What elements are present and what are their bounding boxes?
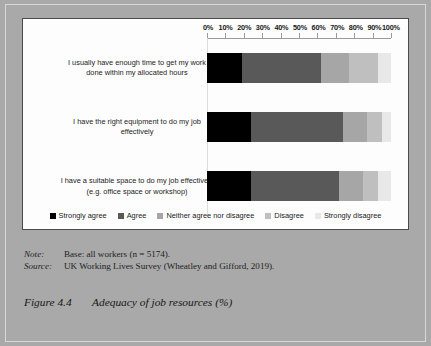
- figure-caption: Figure 4.4 Adequacy of job resources (%): [24, 296, 414, 308]
- legend-swatch-icon: [118, 213, 124, 219]
- figure-number: Figure 4.4: [24, 296, 92, 308]
- stacked-bar: [207, 53, 391, 83]
- bar-segment: [251, 171, 339, 201]
- chart-legend: Strongly agreeAgreeNeither agree nor dis…: [23, 211, 408, 220]
- x-axis-tick-label: 0%: [203, 23, 213, 32]
- bar-segment: [378, 53, 391, 83]
- legend-swatch-icon: [265, 213, 271, 219]
- legend-swatch-icon: [315, 213, 321, 219]
- x-axis-tick-label: 100%: [382, 23, 400, 32]
- legend-item[interactable]: Strongly disagree: [315, 211, 382, 220]
- bar-segment: [242, 53, 321, 83]
- legend-item[interactable]: Strongly agree: [50, 211, 107, 220]
- x-axis-tick-label: 30%: [256, 23, 270, 32]
- x-axis-tick-label: 70%: [330, 23, 344, 32]
- legend-swatch-icon: [157, 213, 163, 219]
- category-label-line: I have a suitable space to do my job eff…: [53, 176, 221, 187]
- legend-swatch-icon: [50, 213, 56, 219]
- legend-item[interactable]: Neither agree nor disagree: [157, 211, 254, 220]
- category-label: I have the right equipment to do my jobe…: [53, 116, 221, 137]
- category-label-line: effectively: [53, 127, 221, 138]
- stacked-bar: [207, 112, 391, 142]
- note-text: Base: all workers (n = 5174).: [64, 248, 414, 260]
- legend-label: Strongly agree: [59, 211, 107, 220]
- x-axis-tick-label: 60%: [312, 23, 326, 32]
- bar-segment: [363, 171, 378, 201]
- bar-segment: [349, 53, 378, 83]
- chart-panel: 0%10%20%30%40%50%60%70%80%90%100% I usua…: [22, 18, 409, 230]
- figure-notes: Note: Base: all workers (n = 5174). Sour…: [24, 248, 414, 273]
- bar-segment: [321, 53, 349, 83]
- x-axis-tick-label: 90%: [367, 23, 381, 32]
- source-text: UK Working Lives Survey (Wheatley and Gi…: [64, 260, 414, 272]
- bar-segment: [251, 112, 343, 142]
- category-label: I usually have enough time to get my wor…: [53, 57, 221, 78]
- note-row: Note: Base: all workers (n = 5174).: [24, 248, 414, 260]
- legend-label: Neither agree nor disagree: [166, 211, 254, 220]
- source-label: Source:: [24, 260, 64, 272]
- bar-segment: [378, 171, 391, 201]
- bar-segment: [207, 112, 251, 142]
- x-axis-tick-label: 20%: [237, 23, 251, 32]
- bar-segment: [207, 53, 242, 83]
- category-label-line: I have the right equipment to do my job: [53, 116, 221, 127]
- note-label: Note:: [24, 248, 64, 260]
- legend-label: Agree: [127, 211, 147, 220]
- bar-segment: [367, 112, 382, 142]
- figure-page: 0%10%20%30%40%50%60%70%80%90%100% I usua…: [0, 0, 431, 346]
- x-axis-tick-label: 80%: [349, 23, 363, 32]
- legend-label: Strongly disagree: [324, 211, 382, 220]
- bar-row: I have a suitable space to do my job eff…: [23, 157, 410, 216]
- bar-segment: [207, 171, 251, 201]
- x-axis-tick-label: 50%: [293, 23, 307, 32]
- x-axis-tick-label: 40%: [274, 23, 288, 32]
- category-label-line: (e.g. office space or workshop): [53, 186, 221, 197]
- bar-row: I usually have enough time to get my wor…: [23, 38, 410, 97]
- x-axis-tick-label: 10%: [219, 23, 233, 32]
- figure-title: Adequacy of job resources (%): [92, 296, 232, 308]
- legend-item[interactable]: Disagree: [265, 211, 304, 220]
- bar-segment: [343, 112, 367, 142]
- category-label: I have a suitable space to do my job eff…: [53, 176, 221, 197]
- category-label-line: I usually have enough time to get my wor…: [53, 57, 221, 68]
- legend-label: Disagree: [274, 211, 304, 220]
- stacked-bar: [207, 171, 391, 201]
- category-label-line: done within my allocated hours: [53, 68, 221, 79]
- bar-row: I have the right equipment to do my jobe…: [23, 97, 410, 156]
- legend-item[interactable]: Agree: [118, 211, 147, 220]
- source-row: Source: UK Working Lives Survey (Wheatle…: [24, 260, 414, 272]
- bar-segment: [339, 171, 363, 201]
- bar-segment: [382, 112, 391, 142]
- plot-area: I usually have enough time to get my wor…: [23, 38, 410, 216]
